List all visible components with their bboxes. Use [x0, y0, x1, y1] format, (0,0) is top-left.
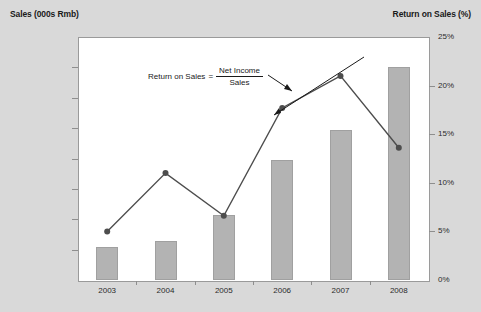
right-tick-label: 25%: [438, 33, 454, 41]
right-tick-mark: [429, 231, 435, 232]
right-tick-mark: [429, 86, 435, 87]
right-tick-label: 0%: [438, 276, 450, 284]
line-marker: [396, 145, 402, 151]
x-tick-mark: [311, 281, 312, 285]
left-axis-title: Sales (000s Rmb): [10, 9, 79, 19]
x-tick-mark: [195, 281, 196, 285]
right-tick-label: 15%: [438, 130, 454, 138]
formula-annotation: Return on Sales = Net Income Sales: [148, 66, 263, 87]
x-tick-label: 2004: [146, 287, 186, 295]
x-tick-mark: [136, 281, 137, 285]
x-tick-mark: [253, 281, 254, 285]
line-marker: [104, 228, 110, 234]
formula-numerator: Net Income: [216, 66, 263, 76]
formula-equals: =: [208, 72, 213, 81]
x-tick-mark: [370, 281, 371, 285]
x-tick-label: 2003: [87, 287, 127, 295]
chart-container: Sales (000s Rmb) Return on Sales (%) 16,…: [0, 0, 481, 312]
return-on-sales-line: [107, 76, 399, 232]
right-tick-label: 10%: [438, 179, 454, 187]
formula-denominator: Sales: [226, 77, 252, 87]
x-tick-label: 2006: [262, 287, 302, 295]
right-tick-mark: [429, 134, 435, 135]
formula-lead: Return on Sales: [148, 72, 205, 81]
right-tick-mark: [429, 183, 435, 184]
right-tick-label: 20%: [438, 82, 454, 90]
x-tick-label: 2005: [204, 287, 244, 295]
x-tick-label: 2007: [321, 287, 361, 295]
x-tick-label: 2008: [379, 287, 419, 295]
right-tick-label: 5%: [438, 227, 450, 235]
line-marker: [221, 213, 227, 219]
line-marker: [163, 170, 169, 176]
right-axis-title: Return on Sales (%): [393, 9, 471, 19]
formula-fraction: Net Income Sales: [216, 66, 263, 87]
